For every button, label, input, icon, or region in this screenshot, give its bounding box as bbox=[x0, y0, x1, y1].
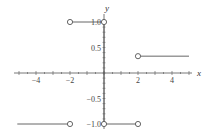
y-tick-label: −0.5 bbox=[86, 95, 101, 104]
y-tick-label: 1.0 bbox=[91, 18, 101, 27]
open-point-marker bbox=[67, 19, 72, 24]
x-tick-label: 4 bbox=[170, 76, 174, 85]
axes bbox=[14, 14, 192, 129]
x-tick-label: −2 bbox=[66, 76, 75, 85]
x-tick-label: 2 bbox=[136, 76, 140, 85]
open-point-marker bbox=[67, 121, 72, 126]
y-tick-label: 0.5 bbox=[91, 44, 101, 53]
endpoint-marker bbox=[101, 19, 106, 24]
endpoint-marker bbox=[101, 121, 106, 126]
x-tick-label: −4 bbox=[32, 76, 41, 85]
y-tick-label: −1.0 bbox=[86, 120, 101, 129]
x-axis-label: x bbox=[196, 68, 201, 78]
open-point-marker bbox=[135, 121, 140, 126]
step-function-chart: −4−2241.00.5−0.5−1.0 x y bbox=[0, 0, 213, 136]
open-point-marker bbox=[135, 54, 140, 59]
y-axis-label: y bbox=[104, 3, 109, 13]
